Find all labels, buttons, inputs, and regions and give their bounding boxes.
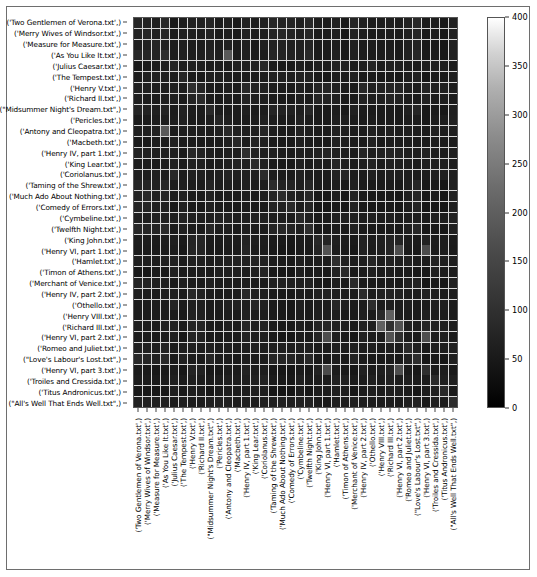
heatmap-cell bbox=[314, 386, 322, 396]
heatmap-cell bbox=[449, 40, 457, 50]
heatmap-cell bbox=[395, 267, 403, 277]
heatmap-cells[interactable] bbox=[133, 17, 458, 408]
heatmap-cell bbox=[134, 321, 142, 331]
heatmap-cell bbox=[143, 105, 151, 115]
heatmap-cell bbox=[368, 213, 376, 223]
heatmap-cell bbox=[395, 50, 403, 60]
heatmap-cell bbox=[305, 365, 313, 375]
heatmap-cell bbox=[233, 235, 241, 245]
heatmap-cell bbox=[278, 245, 286, 255]
heatmap-cell bbox=[242, 235, 250, 245]
heatmap-cell bbox=[242, 397, 250, 407]
heatmap-cell bbox=[287, 202, 295, 212]
heatmap-cell bbox=[350, 202, 358, 212]
heatmap-cell bbox=[215, 267, 223, 277]
heatmap-plot[interactable] bbox=[133, 17, 458, 408]
x-tick-mark bbox=[309, 408, 310, 412]
heatmap-cell bbox=[269, 256, 277, 266]
y-tick-mark bbox=[123, 163, 127, 164]
heatmap-cell bbox=[188, 256, 196, 266]
heatmap-cell bbox=[269, 191, 277, 201]
heatmap-cell bbox=[413, 105, 421, 115]
heatmap-cell bbox=[449, 256, 457, 266]
heatmap-cell bbox=[170, 321, 178, 331]
heatmap-cell bbox=[260, 94, 268, 104]
y-tick-label: ('Richard II.txt',) bbox=[64, 94, 121, 103]
heatmap-cell bbox=[242, 386, 250, 396]
heatmap-cell bbox=[269, 40, 277, 50]
y-tick-mark bbox=[123, 402, 127, 403]
heatmap-cell bbox=[377, 137, 385, 147]
heatmap-cell bbox=[422, 191, 430, 201]
heatmap-cell bbox=[197, 18, 205, 28]
heatmap-cell bbox=[422, 148, 430, 158]
heatmap-cell bbox=[206, 126, 214, 136]
heatmap-cell bbox=[197, 224, 205, 234]
x-tick-label: ('Comedy of Errors.txt',) bbox=[286, 418, 295, 503]
heatmap-cell bbox=[134, 397, 142, 407]
heatmap-cell bbox=[206, 289, 214, 299]
heatmap-cell bbox=[170, 310, 178, 320]
heatmap-cell bbox=[251, 94, 259, 104]
heatmap-cell bbox=[179, 256, 187, 266]
heatmap-cell bbox=[296, 105, 304, 115]
heatmap-cell bbox=[143, 332, 151, 342]
heatmap-cell bbox=[323, 300, 331, 310]
heatmap-cell bbox=[413, 18, 421, 28]
heatmap-cell bbox=[269, 321, 277, 331]
heatmap-cell bbox=[368, 148, 376, 158]
heatmap-cell bbox=[422, 235, 430, 245]
heatmap-cell bbox=[179, 354, 187, 364]
heatmap-cell bbox=[179, 245, 187, 255]
heatmap-cell bbox=[386, 29, 394, 39]
heatmap-cell bbox=[224, 354, 232, 364]
heatmap-cell bbox=[215, 159, 223, 169]
heatmap-cell bbox=[377, 126, 385, 136]
heatmap-cell bbox=[323, 354, 331, 364]
heatmap-cell bbox=[134, 289, 142, 299]
heatmap-cell bbox=[287, 278, 295, 288]
x-tick-label: ('Henry V.txt',) bbox=[187, 418, 196, 469]
heatmap-cell bbox=[215, 115, 223, 125]
heatmap-cell bbox=[431, 354, 439, 364]
heatmap-cell bbox=[332, 386, 340, 396]
heatmap-cell bbox=[233, 180, 241, 190]
heatmap-cell bbox=[278, 170, 286, 180]
heatmap-cell bbox=[242, 332, 250, 342]
heatmap-cell bbox=[377, 343, 385, 353]
heatmap-cell bbox=[395, 115, 403, 125]
heatmap-cell bbox=[404, 137, 412, 147]
heatmap-cell bbox=[233, 202, 241, 212]
heatmap-cell bbox=[278, 213, 286, 223]
y-tick-label: ('Henry IV, part 1.txt',) bbox=[41, 148, 121, 157]
heatmap-cell bbox=[431, 332, 439, 342]
heatmap-cell bbox=[395, 83, 403, 93]
heatmap-cell bbox=[305, 126, 313, 136]
heatmap-cell bbox=[170, 300, 178, 310]
heatmap-cell bbox=[359, 202, 367, 212]
heatmap-cell bbox=[215, 40, 223, 50]
heatmap-cell bbox=[179, 202, 187, 212]
heatmap-cell bbox=[260, 191, 268, 201]
heatmap-cell bbox=[161, 278, 169, 288]
heatmap-cell bbox=[287, 397, 295, 407]
heatmap-cell bbox=[296, 72, 304, 82]
heatmap-cell bbox=[440, 278, 448, 288]
heatmap-cell bbox=[341, 29, 349, 39]
heatmap-cell bbox=[287, 83, 295, 93]
heatmap-cell bbox=[179, 148, 187, 158]
heatmap-cell bbox=[179, 191, 187, 201]
heatmap-cell bbox=[440, 245, 448, 255]
heatmap-cell bbox=[386, 300, 394, 310]
x-tick-mark bbox=[236, 408, 237, 412]
x-tick-label: ('Richard II.txt',) bbox=[196, 418, 205, 475]
heatmap-cell bbox=[152, 159, 160, 169]
heatmap-cell bbox=[431, 83, 439, 93]
colorbar-tick-label: 100 bbox=[512, 305, 528, 315]
heatmap-cell bbox=[431, 386, 439, 396]
heatmap-cell bbox=[170, 343, 178, 353]
heatmap-cell bbox=[188, 235, 196, 245]
heatmap-cell bbox=[395, 137, 403, 147]
x-tick-mark bbox=[354, 408, 355, 412]
heatmap-cell bbox=[170, 332, 178, 342]
